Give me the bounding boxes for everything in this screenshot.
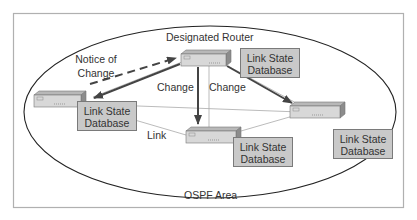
- change-label-right: Change: [209, 81, 246, 93]
- link-state-database-dr: Link State Database: [240, 48, 300, 78]
- db-line1: Link State: [78, 105, 136, 117]
- change-label-left: Change: [157, 81, 194, 93]
- notice-of-change-line1: Notice of: [73, 53, 119, 65]
- db-line2: Database: [234, 153, 292, 165]
- link-state-database-left: Link State Database: [77, 101, 137, 131]
- ospf-diagram: Designated Router Notice of Change Chang…: [0, 0, 417, 220]
- designated-router-label: Designated Router: [166, 31, 254, 43]
- designated-router-icon: [181, 50, 231, 66]
- notice-of-change-line2: Change: [73, 67, 119, 79]
- notice-of-change-label: Notice of Change: [73, 53, 119, 79]
- link-state-database-right: Link State Database: [333, 129, 393, 159]
- router-right-icon: [290, 102, 345, 118]
- ospf-area-label: OSPF Area: [184, 189, 237, 201]
- db-line1: Link State: [234, 141, 292, 153]
- db-line1: Link State: [334, 133, 392, 145]
- db-line2: Database: [334, 145, 392, 157]
- db-line2: Database: [78, 117, 136, 129]
- link-label: Link: [147, 129, 166, 141]
- link-state-database-bottom: Link State Database: [233, 137, 293, 167]
- db-line1: Link State: [241, 52, 299, 64]
- db-line2: Database: [241, 64, 299, 76]
